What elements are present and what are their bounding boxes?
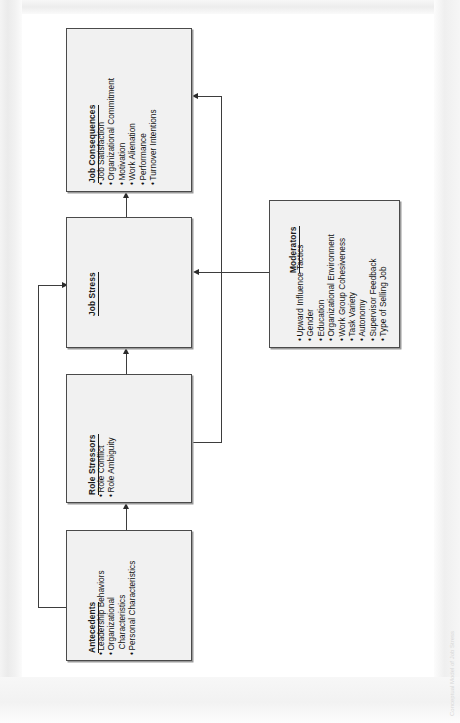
box-job-consequences-items: •Job Satisfaction •Organizational Commit… xyxy=(97,35,159,185)
list-item: •Organizational xyxy=(107,537,117,655)
arrowhead-role-stressors-bottom xyxy=(123,503,129,509)
connector-role-stressors-right-stub xyxy=(192,442,222,443)
connector-role-stressors-to-job-stress xyxy=(126,353,127,374)
bullet-icon: • xyxy=(379,338,389,341)
arrowhead-job-consequences-bottom xyxy=(123,192,129,198)
box-moderators[interactable]: Moderators •Upward Influence Tactics •Ge… xyxy=(269,200,400,348)
list-item: •Education xyxy=(317,205,327,341)
list-item: •Type of Selling Job xyxy=(379,205,389,341)
list-item: •Job Satisfaction xyxy=(97,35,107,185)
bullet-icon: • xyxy=(97,652,107,655)
list-item: •Autonomy xyxy=(358,205,368,341)
bullet-icon: • xyxy=(369,338,379,341)
bullet-icon: • xyxy=(296,338,306,341)
list-item: •Motivation xyxy=(118,35,128,185)
bullet-icon: • xyxy=(97,182,107,185)
list-item: •Supervisor Feedback xyxy=(369,205,379,341)
arrowhead-job-stress-bottom xyxy=(123,348,129,354)
diagram-page: Job Consequences •Job Satisfaction •Orga… xyxy=(0,0,460,723)
bullet-icon: • xyxy=(338,338,348,341)
bullet-icon: • xyxy=(128,652,138,655)
box-antecedents-items: •Leadership Behaviors •Organizational Ch… xyxy=(97,537,139,655)
bullet-icon: • xyxy=(348,338,358,341)
page-edge-right xyxy=(434,0,460,723)
bullet-icon: • xyxy=(149,182,159,185)
bullet-icon: • xyxy=(107,494,117,497)
box-title: Job Stress xyxy=(87,272,99,316)
list-item: •Gender xyxy=(306,205,316,341)
list-item: •Performance xyxy=(139,35,149,185)
connector-into-job-consequences xyxy=(198,96,222,97)
bullet-icon: • xyxy=(306,338,316,341)
box-role-stressors-items: •Role Conflict •Role Ambiguity xyxy=(97,382,118,497)
page-edge-bottom xyxy=(0,677,460,723)
connector-role-stressors-riser xyxy=(221,96,222,443)
bullet-icon: • xyxy=(327,338,337,341)
bullet-icon: • xyxy=(358,338,368,341)
box-antecedents[interactable]: Antecedents •Leadership Behaviors •Organ… xyxy=(66,530,192,661)
bullet-icon: • xyxy=(128,182,138,185)
bullet-icon: • xyxy=(317,338,327,341)
arrowhead-job-consequences-right xyxy=(192,93,198,99)
box-moderators-items: •Upward Influence Tactics •Gender •Educa… xyxy=(296,205,390,341)
list-item: •Organizational Commitment xyxy=(107,35,117,185)
list-item: •Personal Characteristics xyxy=(128,537,138,655)
page-edge-top xyxy=(0,0,460,14)
box-job-stress-title-wrap: Job Stress xyxy=(81,272,99,316)
list-item: •Leadership Behaviors xyxy=(97,537,107,655)
list-item: •Upward Influence Tactics xyxy=(296,205,306,341)
page-edge-left xyxy=(0,0,22,723)
connector-antecedents-left-stub xyxy=(38,607,68,608)
list-item: •Role Conflict xyxy=(97,382,107,497)
list-item: •Task Variety xyxy=(348,205,358,341)
bullet-icon: • xyxy=(118,182,128,185)
list-item: •Role Ambiguity xyxy=(107,382,117,497)
connector-antecedents-to-role-stressors xyxy=(126,508,127,530)
list-item: •Organizational Environment xyxy=(327,205,337,341)
box-job-consequences[interactable]: Job Consequences •Job Satisfaction •Orga… xyxy=(66,28,192,192)
arrowhead-job-stress-right xyxy=(193,269,199,275)
bullet-icon: • xyxy=(107,182,117,185)
connector-antecedents-into-job-stress xyxy=(38,285,64,286)
connector-job-stress-to-job-consequences xyxy=(126,197,127,217)
connector-antecedents-left-riser xyxy=(38,285,39,608)
list-item-continuation: Characteristics xyxy=(118,537,128,655)
connector-moderators-to-job-stress xyxy=(199,272,269,273)
bullet-icon: • xyxy=(139,182,149,185)
bullet-icon: • xyxy=(97,494,107,497)
box-job-stress[interactable]: Job Stress xyxy=(66,217,192,348)
figure-caption: Conceptual Model of Job Stress xyxy=(449,631,455,716)
list-item: •Work Alienation xyxy=(128,35,138,185)
bullet-icon: • xyxy=(107,652,117,655)
box-role-stressors[interactable]: Role Stressors •Role Conflict •Role Ambi… xyxy=(66,374,192,503)
list-item: •Work Group Cohesiveness xyxy=(338,205,348,341)
list-item: •Turnover Intentions xyxy=(149,35,159,185)
